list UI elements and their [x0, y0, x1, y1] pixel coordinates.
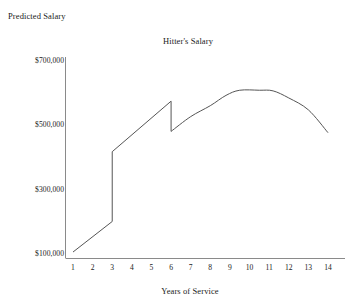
data-series: [73, 90, 328, 252]
series-segment-free-agency: [171, 90, 328, 133]
plot-area: [0, 0, 360, 308]
series-segment-arbitration: [112, 101, 171, 152]
series-segment-pre-arbitration: [73, 221, 112, 252]
chart-container: Predicted Salary Hitter's Salary Years o…: [0, 0, 360, 308]
